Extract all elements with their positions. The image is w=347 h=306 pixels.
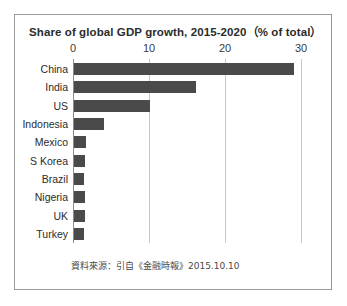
x-tick-label-10: 10 [143,42,155,54]
bar-s-korea [74,155,85,167]
bar-mexico [74,136,86,148]
bar-row: China [73,60,301,78]
bar-row: Mexico [73,133,301,151]
category-label-nigeria: Nigeria [35,191,68,203]
x-tick-label-30: 30 [295,42,307,54]
bar-nigeria [74,191,85,203]
bar-us [74,100,150,112]
category-label-turkey: Turkey [36,228,68,240]
bar-indonesia [74,118,104,130]
category-label-india: India [45,81,68,93]
category-label-china: China [41,63,68,75]
bar-india [74,81,196,93]
bar-row: US [73,97,301,115]
bar-china [74,63,294,75]
category-label-brazil: Brazil [42,173,68,185]
bar-row: Brazil [73,170,301,188]
bar-row: Indonesia [73,115,301,133]
bar-row: UK [73,206,301,224]
x-tick-label-0: 0 [70,42,76,54]
x-tick-label-20: 20 [219,42,231,54]
bar-rows: ChinaIndiaUSIndonesiaMexicoS KoreaBrazil… [73,60,301,243]
gridline-30 [301,59,302,243]
bar-row: Nigeria [73,188,301,206]
bar-turkey [74,228,84,240]
bar-row: India [73,78,301,96]
plot-area: 0102030 ChinaIndiaUSIndonesiaMexicoS Kor… [73,47,301,243]
category-label-indonesia: Indonesia [22,118,68,130]
category-label-mexico: Mexico [35,136,68,148]
bar-uk [74,210,85,222]
bar-row: S Korea [73,151,301,169]
chart-title: Share of global GDP growth, 2015-2020（% … [29,23,322,39]
category-label-s-korea: S Korea [30,155,68,167]
category-label-uk: UK [53,210,68,222]
bar-brazil [74,173,84,185]
bar-row: Turkey [73,225,301,243]
category-label-us: US [53,100,68,112]
chart-figure: Share of global GDP growth, 2015-2020（% … [0,0,347,306]
source-note: 資料來源：引自《金融時報》2015.10.10 [71,259,240,272]
chart-panel: Share of global GDP growth, 2015-2020（% … [14,14,332,290]
